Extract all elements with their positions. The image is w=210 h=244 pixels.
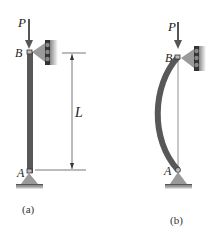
bottom-pin-label: A (163, 164, 172, 178)
load-arrow (25, 19, 33, 49)
caption-a: (a) (22, 203, 35, 216)
bottom-pin-label: A (16, 166, 25, 180)
panel-a: P B L A (a) (15, 15, 86, 216)
straight-column (27, 52, 33, 173)
pin-a (176, 168, 181, 173)
column-buckling-diagram: P B L A (a) (0, 0, 210, 244)
length-label: L (74, 105, 83, 120)
pin-a (27, 169, 32, 173)
buckled-column (158, 57, 178, 170)
caption-b: (b) (170, 214, 183, 227)
roller-support (181, 46, 206, 71)
pin-b (27, 50, 32, 54)
roller-support (32, 40, 58, 65)
top-pin-label: B (15, 46, 23, 60)
load-label: P (167, 19, 176, 34)
pin-b (175, 55, 180, 59)
load-label: P (17, 15, 26, 30)
panel-b: P B A (b) (158, 19, 206, 227)
